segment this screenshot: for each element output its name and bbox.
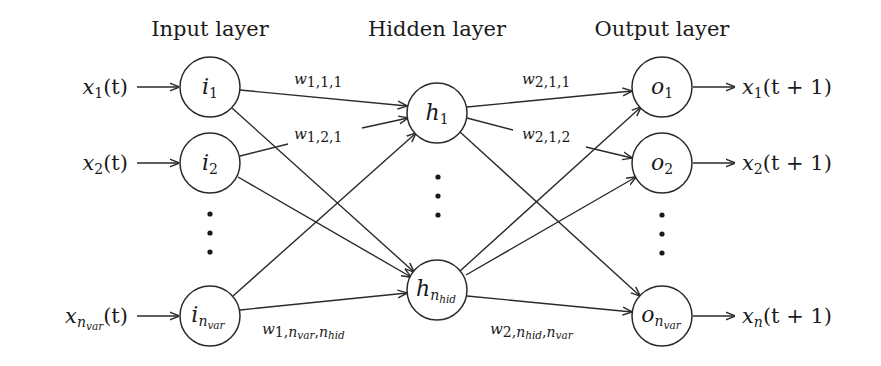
hidden-ellipsis: [435, 174, 440, 217]
node-i2: i2: [180, 133, 240, 193]
node-i-nvar: invar: [180, 286, 240, 346]
output-ellipsis: [659, 212, 664, 255]
node-o-nvar: onvar: [632, 286, 692, 346]
edge-i1-h1: [240, 90, 407, 106]
neural-network-diagram: Input layer Hidden layer Output layer x1…: [0, 0, 881, 366]
edge-h1-o2-b: [586, 147, 632, 158]
node-i1: i1: [180, 57, 240, 117]
weight-label-w111: w1,1,1: [294, 70, 342, 90]
output-label-x1: x1(t + 1): [742, 75, 832, 101]
weight-label-w121: w1,2,1: [294, 125, 342, 145]
weight-label-w211: w2,1,1: [522, 70, 570, 90]
node-o2: o2: [632, 133, 692, 193]
input-label-xnvar: xnvar(t): [65, 304, 128, 332]
edges-input-hidden: [232, 90, 416, 310]
edge-invar-h1: [233, 133, 416, 296]
output-label-x2: x2(t + 1): [742, 151, 832, 177]
edge-i2-h1-b: [362, 118, 408, 128]
input-label-x2: x2(t): [82, 151, 128, 177]
edge-hnhid-o2: [466, 177, 636, 275]
edge-h1-o2-a: [467, 118, 513, 130]
node-h1: h1: [407, 83, 467, 143]
edge-h1-onvar: [460, 132, 640, 296]
weight-label-w212: w2,1,2: [522, 125, 570, 145]
node-o1: o1: [632, 57, 692, 117]
edge-h1-o1: [467, 91, 632, 107]
edge-hnhid-onvar: [467, 296, 632, 312]
node-h-nhid: hnhid: [407, 260, 467, 320]
edge-invar-hnhid: [240, 293, 407, 310]
input-layer-title: Input layer: [151, 17, 269, 41]
weight-label-w2-last: w2,nhid,nvar: [490, 320, 574, 341]
edges-hidden-output: [460, 91, 641, 312]
input-ellipsis: [207, 211, 212, 254]
weight-label-w1-last: w1,nvar,nhid: [262, 320, 345, 341]
output-layer-title: Output layer: [595, 17, 731, 41]
output-label-xn: xn(t + 1): [742, 304, 832, 330]
hidden-layer-title: Hidden layer: [368, 17, 507, 41]
input-label-x1: x1(t): [82, 75, 128, 101]
edge-i2-h1-a: [240, 144, 288, 156]
